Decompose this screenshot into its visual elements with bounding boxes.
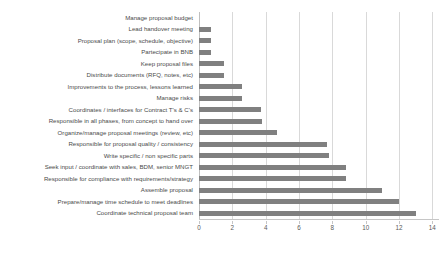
category-label: Write specific / non specific parts <box>0 150 196 162</box>
category-label: Keep proposal files <box>0 58 196 70</box>
category-label: Proposal plan (scope, schedule, objectiv… <box>0 35 196 47</box>
bar <box>199 188 382 193</box>
bar <box>199 27 211 32</box>
bar-row <box>199 81 439 93</box>
bar <box>199 176 346 181</box>
category-label: Responsible in all phases, from concept … <box>0 116 196 128</box>
bar-row <box>199 70 439 82</box>
bar-row <box>199 173 439 185</box>
bar <box>199 96 242 101</box>
horizontal-bar-chart: Manage proposal budgetLead handover meet… <box>0 0 445 257</box>
category-label: Partecipate in BNB <box>0 47 196 59</box>
category-label: Coordinates / interfaces for Contract T'… <box>0 104 196 116</box>
category-axis-labels: Manage proposal budgetLead handover meet… <box>0 12 196 219</box>
bar-row <box>199 12 439 24</box>
x-tick-label: 12 <box>395 224 402 231</box>
category-label: Distribute documents (RFQ, notes, etc) <box>0 70 196 82</box>
bar-row <box>199 150 439 162</box>
bar-row <box>199 162 439 174</box>
bar-row <box>199 24 439 36</box>
category-label: Improvements to the process, lessons lea… <box>0 81 196 93</box>
bar <box>199 107 261 112</box>
plot-area <box>199 12 439 219</box>
bar-row <box>199 58 439 70</box>
bars-layer <box>199 12 439 219</box>
bar-row <box>199 104 439 116</box>
x-axis-tick-labels: 02468101214 <box>199 221 439 237</box>
category-label: Organize/manage proposal meetings (revie… <box>0 127 196 139</box>
bar <box>199 153 329 158</box>
bar-row <box>199 47 439 59</box>
bar-row <box>199 35 439 47</box>
x-tick-label: 4 <box>264 224 268 231</box>
bar-row <box>199 93 439 105</box>
bar <box>199 84 242 89</box>
x-tick-label: 8 <box>331 224 335 231</box>
bar <box>199 165 346 170</box>
bar-row <box>199 196 439 208</box>
category-label: Manage risks <box>0 93 196 105</box>
x-axis-line <box>199 219 439 220</box>
bar <box>199 119 262 124</box>
category-label: Prepare/manage time schedule to meet dea… <box>0 196 196 208</box>
x-tick-label: 10 <box>362 224 369 231</box>
category-label: Responsible for proposal quality / consi… <box>0 139 196 151</box>
bar-row <box>199 127 439 139</box>
bar-row <box>199 139 439 151</box>
bar <box>199 130 277 135</box>
x-tick-label: 2 <box>231 224 235 231</box>
bar-row <box>199 116 439 128</box>
bar <box>199 199 399 204</box>
bar <box>199 142 327 147</box>
bar <box>199 211 416 216</box>
x-tick-label: 0 <box>197 224 201 231</box>
x-tick-label: 14 <box>429 224 436 231</box>
bar <box>199 38 211 43</box>
category-label: Lead handover meeting <box>0 24 196 36</box>
category-label: Responsible for compliance with requirem… <box>0 173 196 185</box>
x-tick-label: 6 <box>297 224 301 231</box>
bar <box>199 61 224 66</box>
bar <box>199 50 211 55</box>
category-label: Manage proposal budget <box>0 12 196 24</box>
category-label: Seek input / coordinate with sales, BDM,… <box>0 162 196 174</box>
bar <box>199 73 224 78</box>
category-label: Assemble proposal <box>0 185 196 197</box>
bar-row <box>199 185 439 197</box>
bar-row <box>199 208 439 220</box>
category-label: Coordinate technical proposal team <box>0 208 196 220</box>
